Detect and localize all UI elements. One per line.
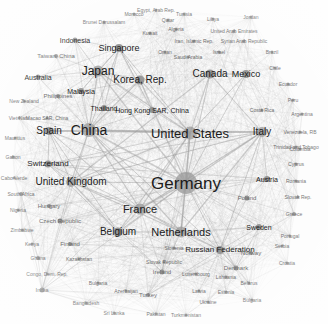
node-label: Taiwan, China [37,53,75,59]
node-label: Mauritius [5,136,25,141]
node-label: Australia [24,74,51,81]
node-label: New Zealand [9,99,38,104]
node-label: Brazil [266,50,279,55]
node-label: Israel [213,50,225,55]
node-label: Switzerland [27,160,68,168]
node-label: Ghana [30,256,45,261]
node-label: Pakistan [146,312,165,317]
node-label: Greece [286,212,302,217]
node-label: Slovenia [164,246,183,251]
node-label: Estonia [218,290,235,295]
node-label: Norway [241,250,261,256]
node-label: Mexico [232,70,261,79]
node-label: Venezuela, RB [283,130,316,135]
node-label: Serbia [275,244,289,249]
node-label: Iran, Islamic Rep. [175,39,214,44]
node-label: Ukraine [199,300,216,305]
node-label: Nigeria [10,208,26,213]
node-label: Algeria [168,27,184,32]
node-label: Luxembourg [182,272,210,277]
node-label: Belgium [100,227,136,237]
node-label: Poland [238,195,257,201]
node-label: Bulgaria [243,298,261,303]
node-label: India [35,287,48,293]
node-label: Chile [269,66,280,71]
graph-edge [251,17,272,52]
node-label: Kazakhstan [66,257,92,262]
node-label: Romania [286,179,306,184]
node-label: United States [151,127,229,140]
network-graph: GermanyUnited StatesChinaFranceNetherlan… [0,0,328,324]
node-label: Bangladesh [73,301,99,306]
node-label: Netherlands [151,227,210,238]
node-label: Croatia [279,261,295,266]
node-label: South Africa [8,192,35,197]
node-label: China [71,123,108,137]
node-label: Congo, Dem. Rep. [26,272,67,277]
node-label: Libya [207,17,219,22]
node-label: Trinidad and Tobago [273,145,318,150]
node-label: France [123,204,157,215]
node-label: Viet Nam [9,116,29,121]
node-label: Belarus [241,281,258,286]
node-label: Jordan [243,15,258,20]
node-label: Morocco [124,12,143,17]
node-label: Syrian Arab Republic [221,39,268,44]
node-label: Japan [82,65,115,77]
node-label: Turkey [139,292,157,298]
node-label: United Kingdom [35,177,106,187]
node-label: Sweden [246,224,271,231]
node-label: Cabo Verde [1,176,27,181]
node-label: Ireland [153,269,171,275]
node-label: Turkmenistan [171,313,201,318]
node-label: Canada [192,69,227,79]
node-label: Cyprus [288,162,304,167]
node-label: Argentina [291,112,312,117]
node-label: Oman [158,50,172,55]
node-label: Slovak Republic [146,260,182,265]
node-label: Portugal [281,234,300,239]
graph-edge [13,157,18,210]
node-label: Italy [253,127,271,137]
node-label: Finland [60,241,80,247]
graph-edge [32,244,42,290]
node-label: Germany [151,175,221,192]
node-label: Macao SAR, China [26,116,69,121]
node-label: Brunei Darussalam [83,20,126,25]
node-label: Kuwait [142,31,157,36]
node-label: Slovak Rep. [285,195,312,200]
node-label: Tunisia [176,12,192,17]
node-label: Gabon [5,155,20,160]
node-label: Czech Republic [39,218,81,224]
node-label: Thailand [91,105,118,112]
node-label: Denmark [224,265,248,271]
node-label: Azerbaijan [114,289,138,294]
node-label: Spain [36,126,62,136]
node-label: Indonesia [60,37,90,44]
node-label: Hungary [38,203,61,209]
node-label: Hong Kong SAR, China [115,107,189,114]
node-label: Peru [288,98,299,103]
node-label: Ecuador [279,82,298,87]
node-label: Latvia [192,289,205,294]
node-label: Saudi Arabia [174,55,202,60]
node-label: Korea, Rep. [113,75,166,85]
node-label: Lithuania [216,275,236,280]
node-label: Singapore [98,44,139,53]
node-label: Philippines [43,93,72,99]
node-label: United Arab Emirates [210,29,257,34]
node-label: Kenya [25,242,39,247]
node-label: Zimbabwe [10,228,33,233]
node-label: Qatar [162,18,175,23]
node-label: Austria [256,176,278,183]
node-label: Sri Lanka [103,311,124,316]
node-label: Bulgaria [89,281,107,286]
node-label: Costa Rica [250,108,274,113]
